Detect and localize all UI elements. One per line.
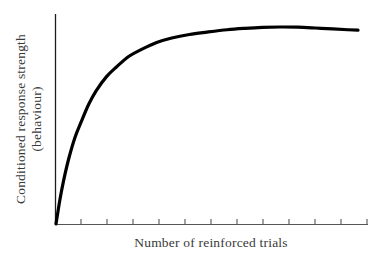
chart-canvas: Number of reinforced trials Conditioned … <box>0 0 387 260</box>
learning-curve-figure: Number of reinforced trials Conditioned … <box>0 0 387 260</box>
acquisition-curve <box>56 27 358 224</box>
y-axis-label-line2: (behaviour) <box>29 86 44 151</box>
x-axis-label: Number of reinforced trials <box>134 235 287 250</box>
x-axis-ticks <box>81 219 367 224</box>
y-axis-label-line1: Conditioned response strength <box>13 34 28 204</box>
